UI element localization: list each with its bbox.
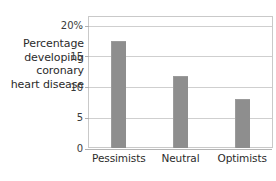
x-tick-label-pessimists: Pessimists [92,152,145,164]
y-axis-ticks: 05101520% [0,16,85,148]
y-tick-label-15: 15 [0,50,83,61]
bar-pessimists [111,41,126,148]
x-tick-label-optimists: Optimists [218,152,267,164]
x-tick-label-neutral: Neutral [161,152,199,164]
y-tick-label-10: 10 [0,81,83,92]
x-axis-ticks: PessimistsNeutralOptimists [88,152,273,172]
gridline-0 [89,149,272,150]
y-tick-label-0: 0 [0,143,83,154]
bars-layer [88,16,273,148]
y-tick-label-5: 5 [0,112,83,123]
y-tick-label-20: 20% [0,20,83,31]
bar-optimists [235,99,250,148]
y-tickmark-0 [85,149,89,150]
bar-neutral [173,76,188,148]
bar-chart: Percentage developing coronary heart dis… [0,0,276,181]
